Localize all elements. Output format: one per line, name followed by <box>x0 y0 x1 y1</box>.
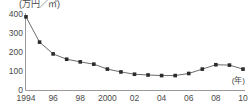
plot-area <box>0 0 248 108</box>
data-point-marker <box>119 70 123 74</box>
data-point-marker <box>106 67 110 71</box>
data-point-marker <box>173 74 177 78</box>
axis-lines <box>26 13 246 91</box>
data-point-marker <box>24 15 28 19</box>
line-chart: (万円／㎡) (年) 0100200300400 199496982000020… <box>0 0 248 108</box>
data-point-marker <box>146 73 150 77</box>
data-point-marker <box>38 40 42 44</box>
data-point-marker <box>65 57 69 61</box>
data-point-marker <box>228 63 232 67</box>
data-point-marker <box>201 67 205 71</box>
data-point-marker <box>187 72 191 76</box>
data-point-marker <box>214 63 218 67</box>
data-point-marker <box>51 52 55 56</box>
series-line <box>26 17 243 76</box>
data-point-marker <box>133 72 137 76</box>
data-point-marker <box>241 67 245 71</box>
data-point-marker <box>160 74 164 78</box>
data-point-marker <box>92 62 96 66</box>
data-point-marker <box>78 60 82 64</box>
series-markers <box>24 15 245 77</box>
